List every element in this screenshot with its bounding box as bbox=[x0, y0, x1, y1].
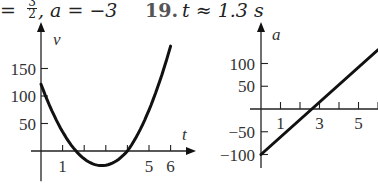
a-tick-label: −100 bbox=[220, 146, 255, 165]
t-tick-label: 1 bbox=[58, 157, 67, 176]
a-axis-label: a bbox=[272, 25, 281, 44]
v-axis-arrow-icon bbox=[37, 22, 45, 32]
t-tick-label: 6 bbox=[166, 157, 175, 176]
t-tick-label-2: 3 bbox=[315, 114, 324, 133]
t-tick-label-2: 5 bbox=[354, 114, 363, 133]
charts-svg: 50100150156vt−100−5050100135a bbox=[0, 0, 378, 188]
t-tick-label: 5 bbox=[145, 157, 154, 176]
a-tick-label: −50 bbox=[228, 123, 255, 142]
t-axis-label: t bbox=[182, 125, 188, 144]
a-axis-arrow-icon bbox=[257, 22, 265, 32]
v-tick-label: 150 bbox=[11, 60, 37, 79]
t-tick-label-2: 1 bbox=[276, 114, 285, 133]
t-axis-arrow-icon bbox=[186, 147, 196, 155]
a-tick-label: 100 bbox=[230, 55, 256, 74]
v-tick-label: 50 bbox=[19, 115, 36, 134]
a-tick-label: 50 bbox=[238, 77, 255, 96]
acceleration-line bbox=[261, 50, 378, 155]
v-axis-label: v bbox=[53, 30, 61, 49]
v-tick-label: 100 bbox=[11, 87, 37, 106]
